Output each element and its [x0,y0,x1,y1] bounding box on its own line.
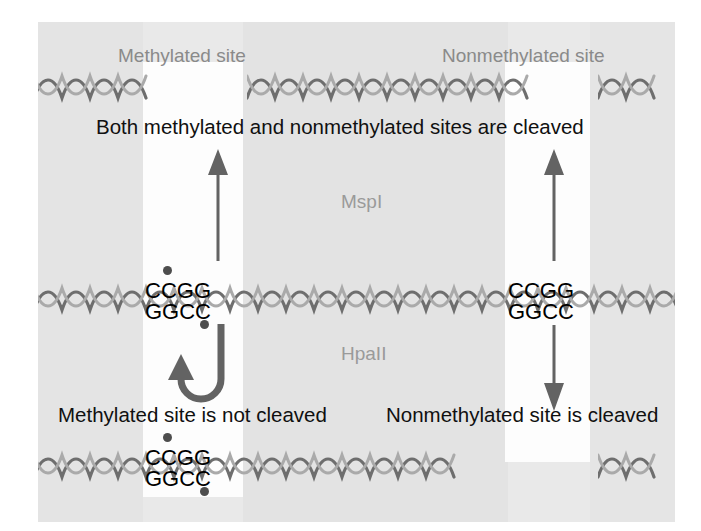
sequence-top-strand: CCGG [145,280,211,301]
figure-root: Methylated site Nonmethylated site [0,0,701,531]
dna-helix-top-fragment-1 [38,68,152,104]
arrow-hpaii-blocked [166,324,238,414]
sequence-bottom-strand: GGCC [145,468,211,489]
hpaii-methylated-result-text: Methylated site is not cleaved [58,405,327,426]
sequence-middle-nonmethylated: CCGG GGCC [508,280,574,322]
dna-helix-middle [38,280,675,316]
mspi-result-text: Both methylated and nonmethylated sites … [96,117,584,138]
methyl-dot-bottom-bottom [200,487,209,496]
sequence-bottom-methylated: CCGG GGCC [145,447,211,489]
enzyme-label-mspi: MspI [341,192,382,211]
sequence-middle-methylated: CCGG GGCC [145,280,211,322]
methylated-site-label: Methylated site [118,46,246,65]
dna-helix-top-fragment-3 [598,68,675,104]
sequence-bottom-strand: GGCC [145,301,211,322]
hpaii-nonmethylated-result-text: Nonmethylated site is cleaved [386,405,658,426]
arrow-hpaii-cleave [542,325,566,411]
arrow-mspi-nonmethylated [542,149,566,261]
dna-helix-bottom-fragment-2 [598,447,675,483]
enzyme-label-hpaii: HpaII [341,344,386,363]
dna-helix-bottom-fragment-1 [38,447,524,483]
nonmethylated-site-label: Nonmethylated site [442,46,605,65]
methyl-dot-middle-top [163,266,172,275]
diagram-panel: Methylated site Nonmethylated site [38,22,675,522]
arrow-mspi-methylated [206,149,230,261]
methyl-dot-bottom-top [163,433,172,442]
sequence-top-strand: CCGG [145,447,211,468]
sequence-top-strand: CCGG [508,280,574,301]
sequence-bottom-strand: GGCC [508,301,574,322]
